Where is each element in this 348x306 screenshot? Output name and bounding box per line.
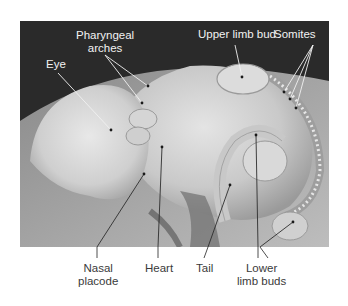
label-lower-limb-buds: Lower limb buds (237, 262, 286, 287)
sem-photo (20, 21, 329, 247)
label-pharyngeal-arches-line1: Pharyngeal (76, 29, 134, 42)
label-lower-limb-buds-line1: Lower (237, 262, 286, 275)
label-nasal-placode: Nasal placode (78, 262, 118, 287)
label-eye: Eye (46, 58, 66, 71)
embryo-figure: Pharyngeal arches Eye Upper limb bud Som… (0, 0, 348, 306)
label-upper-limb-bud: Upper limb bud (198, 28, 276, 41)
label-heart: Heart (145, 262, 173, 275)
label-tail: Tail (196, 262, 213, 275)
label-pharyngeal-arches-line2: arches (76, 42, 134, 55)
label-lower-limb-buds-line2: limb buds (237, 275, 286, 288)
label-pharyngeal-arches: Pharyngeal arches (76, 29, 134, 54)
label-nasal-placode-line1: Nasal (78, 262, 118, 275)
label-nasal-placode-line2: placode (78, 275, 118, 288)
leader-lines (20, 21, 329, 247)
label-somites: Somites (274, 28, 316, 41)
